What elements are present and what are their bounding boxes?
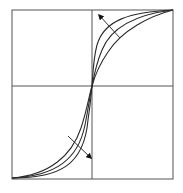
sigmoid-diagram [0, 0, 183, 193]
